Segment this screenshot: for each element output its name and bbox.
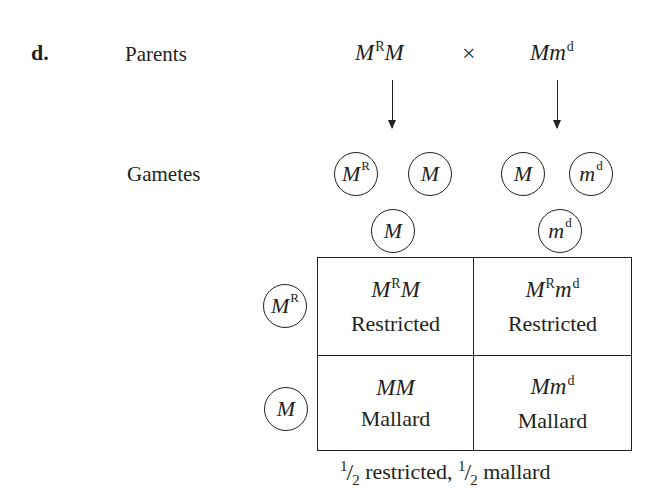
parent-right-genotype: Mmd	[530, 40, 574, 66]
punnett-cell: MRmd Restricted	[473, 258, 631, 355]
cell-phenotype: Restricted	[351, 308, 440, 339]
gametes-row-label: Gametes	[127, 162, 200, 187]
result-caption: 1/2 restricted, 1/2 mallard	[340, 458, 550, 485]
cell-phenotype: Mallard	[518, 405, 588, 436]
parents-row-label: Parents	[125, 42, 187, 67]
punnett-square: MRM Restricted MRmd Restricted MM Mallar…	[317, 257, 632, 451]
cross-symbol: ×	[462, 40, 476, 67]
cell-phenotype: Restricted	[508, 308, 597, 339]
parent-left-genotype: MRM	[355, 40, 404, 66]
cell-genotype: MM	[376, 372, 414, 403]
down-arrow-icon	[557, 80, 558, 128]
fraction-one-half: 1/2	[458, 466, 478, 482]
punnett-column-header: M	[371, 209, 415, 253]
cell-genotype: Mmd	[531, 371, 575, 405]
cell-phenotype: Mallard	[361, 403, 431, 434]
gamete-circle: md	[569, 152, 613, 196]
punnett-row-header: M	[264, 387, 308, 431]
gamete-circle: MR	[334, 152, 378, 196]
gamete-circle: M	[501, 152, 545, 196]
punnett-cell: MM Mallard	[318, 355, 473, 450]
fraction-one-half: 1/2	[340, 466, 360, 482]
punnett-cell: Mmd Mallard	[473, 355, 631, 450]
panel-label: d.	[31, 40, 49, 66]
punnett-column-header: md	[538, 209, 582, 253]
cell-genotype: MRmd	[525, 274, 579, 308]
punnett-row-header: MR	[263, 284, 307, 328]
cell-genotype: MRM	[371, 274, 420, 308]
punnett-cell: MRM Restricted	[318, 258, 473, 355]
gamete-circle: M	[408, 152, 452, 196]
down-arrow-icon	[392, 80, 393, 128]
